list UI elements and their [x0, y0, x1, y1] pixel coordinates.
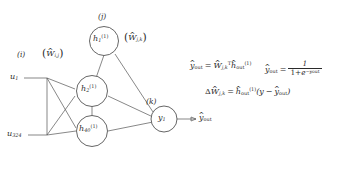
edge-h40-y1: [108, 122, 153, 131]
edge-u1-h2: [47, 78, 75, 89]
node-label-h2: h2(1): [81, 85, 96, 93]
node-label-h40: h40(1): [79, 125, 98, 133]
equation-weight-update: Δ^Wj,k=^hout(1)(y−^yout): [205, 88, 290, 96]
edge-u324-h40: [47, 131, 76, 135]
node-label-h1: h1(1): [93, 35, 108, 43]
equation-sigmoid: ^yout=11+e−^yout: [265, 60, 322, 77]
network-graph: [0, 0, 344, 170]
layer-label-input-index: (i): [17, 51, 25, 59]
neural-network-figure: h1(1) h2(1) h40(1) y1 u1 u324 (i) (j) (k…: [0, 0, 344, 170]
output-arrow-label: ^yout: [199, 114, 212, 122]
input-label-u1: u1: [10, 73, 18, 81]
layer-label-output-index: (k): [146, 98, 156, 106]
edge-u1-h40: [47, 78, 76, 128]
equation-forward-linear: ^yout=^Wj,kT^hout(1): [190, 62, 251, 70]
weight-label-input-hidden: (^Wi,j): [42, 49, 63, 60]
node-label-y1: y1: [158, 114, 166, 122]
input-label-u324: u324: [7, 130, 22, 138]
edge-h1-h2-link: [96, 55, 104, 78]
layer-label-hidden-index: (j): [98, 13, 106, 21]
weight-label-hidden-output: (^Wj,k): [124, 33, 147, 44]
